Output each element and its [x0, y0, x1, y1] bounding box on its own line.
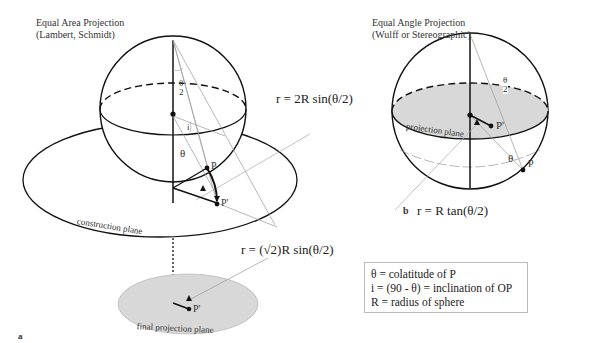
point-p-prime-final-label: P' [193, 303, 200, 315]
legend-line-R: R = radius of sphere [371, 295, 521, 309]
point-p-label-b: P [528, 158, 534, 170]
figure-b-title-line1: Equal Angle Projection [372, 17, 471, 29]
angle-theta-label-b: θ [508, 152, 513, 164]
formula-equal-angle: r = R tan(θ/2) [417, 203, 488, 219]
figure-b-title-line2: (Wulff or Stereographic) [372, 29, 471, 41]
figure-a-title-line1: Equal Area Projection [36, 17, 124, 29]
panel-letter-a: a [18, 330, 23, 342]
point-p-label-a: P [211, 160, 217, 172]
angle-i-label: i [187, 121, 190, 133]
panel-letter-b: b [403, 205, 409, 217]
figure-a-title-line2: (Lambert, Schmidt) [36, 29, 124, 41]
angle-half-den: 2 [179, 88, 184, 97]
figure-b-title: Equal Angle Projection (Wulff or Stereog… [372, 17, 471, 41]
angle-theta-label-a: θ [180, 147, 185, 159]
angle-half-label-a: θ 2 [179, 79, 184, 97]
formula-equal-area: r = 2R sin(θ/2) [276, 91, 353, 107]
point-p-prime-label-a: P' [221, 197, 228, 209]
angle-half-den-b: 2 [503, 85, 508, 94]
legend-line-theta: θ = colatitude of P [371, 267, 521, 281]
formula-final-projection: r = (√2)R sin(θ/2) [241, 242, 334, 258]
legend-box: θ = colatitude of P i = (90 - θ) = incli… [364, 262, 528, 313]
legend-line-i: i = (90 - θ) = inclination of OP [371, 281, 521, 295]
angle-half-label-b: θ 2 [503, 76, 508, 94]
figure-a-title: Equal Area Projection (Lambert, Schmidt) [36, 17, 124, 41]
point-p-prime-label-b: P' [496, 119, 504, 131]
